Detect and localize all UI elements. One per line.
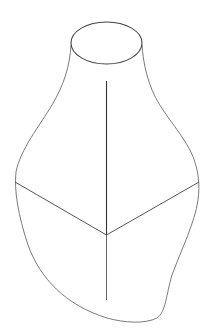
left-diagonal-edge [15,182,107,235]
vase-outline [16,45,199,322]
vase-top-opening [71,22,142,64]
vase-svg [0,0,208,336]
vase-drawing [0,0,208,336]
right-diagonal-edge [107,182,200,235]
